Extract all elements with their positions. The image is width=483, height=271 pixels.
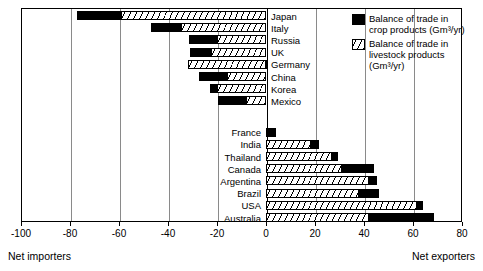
category-label: India [240, 139, 261, 150]
category-label: Germany [271, 59, 310, 70]
trade-balance-chart: JapanItalyRussiaUKGermanyChinaKoreaMexic… [0, 0, 483, 271]
crop-bar-segment [342, 164, 374, 173]
crop-bar-segment [218, 96, 246, 105]
livestock-bar-segment [266, 189, 359, 198]
bar-row [0, 95, 483, 108]
livestock-bar-segment [266, 176, 369, 185]
category-label: UK [271, 47, 284, 58]
bar-row [0, 83, 483, 96]
livestock-bar-segment [211, 48, 266, 57]
category-label: Korea [271, 84, 296, 95]
crop-bar-segment [369, 176, 378, 185]
category-label: Mexico [271, 96, 301, 107]
x-tick-label: -60 [112, 228, 126, 240]
tick-mark [168, 222, 169, 226]
x-tick-label: 40 [358, 228, 369, 240]
category-label: France [231, 127, 261, 138]
tick-mark [413, 222, 414, 226]
category-label: Russia [271, 35, 300, 46]
crop-bar-segment [210, 84, 217, 93]
livestock-bar-segment [266, 140, 311, 149]
category-label: China [271, 72, 296, 83]
livestock-bar-segment [188, 60, 266, 69]
category-label: Australia [224, 213, 261, 224]
tick-mark [217, 222, 218, 226]
tick-mark [462, 222, 463, 226]
x-tick-label: -20 [210, 228, 224, 240]
livestock-bar-segment [217, 35, 266, 44]
tick-mark [70, 222, 71, 226]
livestock-bar-segment [121, 11, 266, 20]
livestock-bar-segment [266, 152, 332, 161]
crop-bar-segment [332, 152, 338, 161]
tick-mark [266, 222, 267, 226]
crop-swatch-icon [352, 14, 365, 25]
crop-bar-segment [190, 48, 211, 57]
x-tick-label: -80 [63, 228, 77, 240]
category-label: Canada [228, 164, 261, 175]
tick-mark [119, 222, 120, 226]
category-label: Thailand [225, 152, 261, 163]
chart-legend: Balance of trade in crop products (Gm³/y… [352, 13, 480, 74]
crop-bar-segment [359, 189, 379, 198]
crop-bar-segment [311, 140, 318, 149]
category-label: Argentina [220, 176, 261, 187]
crop-bar-segment [417, 201, 423, 210]
livestock-bar-segment [217, 84, 266, 93]
legend-label: Balance of trade in livestock products (… [369, 38, 448, 71]
crop-bar-segment [189, 35, 217, 44]
crop-bar-segment [268, 128, 275, 137]
x-tick-label: 0 [263, 228, 269, 240]
net-importers-note: Net importers [8, 250, 71, 263]
category-label: Japan [271, 11, 297, 22]
crop-bar-segment [151, 23, 182, 32]
crop-bar-segment [77, 11, 121, 20]
tick-mark [21, 222, 22, 226]
net-exporters-note: Net exporters [412, 250, 475, 263]
livestock-bar-segment [227, 72, 266, 81]
legend-label: Balance of trade in crop products (Gm³/y… [369, 13, 465, 35]
livestock-bar-segment [246, 96, 266, 105]
category-label: Italy [271, 23, 288, 34]
livestock-swatch-icon [352, 39, 365, 50]
crop-bar-segment [369, 213, 434, 222]
tick-mark [364, 222, 365, 226]
x-tick-label: 60 [407, 228, 418, 240]
category-label: USA [241, 200, 261, 211]
legend-item: Balance of trade in livestock products (… [352, 38, 480, 71]
x-tick-label: -100 [11, 228, 31, 240]
legend-item: Balance of trade in crop products (Gm³/y… [352, 13, 480, 35]
category-label: Brazil [237, 188, 261, 199]
livestock-bar-segment [266, 201, 417, 210]
crop-bar-segment [266, 60, 268, 69]
livestock-bar-segment [266, 164, 342, 173]
livestock-bar-segment [181, 23, 266, 32]
x-tick-label: -40 [161, 228, 175, 240]
x-tick-label: 80 [456, 228, 467, 240]
crop-bar-segment [199, 72, 227, 81]
livestock-bar-segment [266, 213, 369, 222]
tick-mark [315, 222, 316, 226]
x-tick-label: 20 [309, 228, 320, 240]
